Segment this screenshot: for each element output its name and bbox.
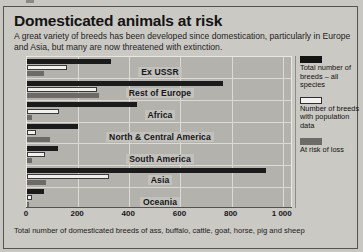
infographic-page: Domesticated animals at risk A great var…	[0, 0, 363, 252]
bar-group	[27, 100, 291, 122]
bar-at-risk	[27, 202, 29, 207]
top-rule	[0, 0, 363, 3]
bar-population-data	[27, 130, 36, 135]
legend-item: At risk of loss	[300, 138, 360, 155]
x-tick-label: 0	[24, 209, 28, 218]
x-tick-label: 800	[224, 209, 237, 218]
bar-at-risk	[27, 71, 44, 76]
bar-population-data	[27, 152, 45, 157]
bar-population-data	[27, 109, 59, 114]
legend-swatch-pop	[300, 97, 322, 104]
x-tick-label: 600	[173, 209, 186, 218]
bar-population-data	[27, 195, 32, 200]
bar-total	[27, 146, 58, 151]
legend-swatch-total	[300, 56, 322, 63]
bar-group	[27, 122, 291, 144]
legend-item: Number of breeds with population data	[300, 97, 360, 131]
plot-area: Ex USSRRest of EuropeAfricaNorth & Centr…	[26, 56, 292, 208]
bar-total	[27, 81, 223, 86]
bar-total	[27, 168, 266, 173]
bar-at-risk	[27, 137, 50, 142]
bar-population-data	[27, 65, 67, 70]
bar-at-risk	[27, 158, 32, 163]
bar-total	[27, 124, 78, 129]
chart-legend: Total number of breeds – all speciesNumb…	[300, 56, 360, 161]
bar-chart: Ex USSRRest of EuropeAfricaNorth & Centr…	[26, 56, 292, 208]
bar-group	[27, 187, 291, 209]
x-axis: 02004006008001 000	[26, 208, 292, 222]
bar-group	[27, 144, 291, 166]
bar-at-risk	[27, 180, 46, 185]
bar-group	[27, 57, 291, 79]
bar-at-risk	[27, 115, 32, 120]
legend-item: Total number of breeds – all species	[300, 56, 360, 90]
page-title: Domesticated animals at risk	[14, 12, 222, 30]
chart-panel: Domesticated animals at risk A great var…	[3, 6, 358, 249]
legend-label: Number of breeds with population data	[300, 105, 360, 131]
bar-total	[27, 59, 111, 64]
x-tick-label: 200	[70, 209, 83, 218]
legend-label: At risk of loss	[300, 146, 360, 155]
bar-group	[27, 166, 291, 188]
bar-group	[27, 79, 291, 101]
legend-label: Total number of breeds – all species	[300, 64, 360, 90]
chart-footnote: Total number of domesticated breeds of a…	[14, 226, 354, 235]
bar-total	[27, 102, 137, 107]
legend-swatch-risk	[300, 138, 322, 145]
x-tick-label: 1 000	[272, 209, 292, 218]
bar-population-data	[27, 174, 109, 179]
bar-total	[27, 189, 44, 194]
x-tick-label: 400	[122, 209, 135, 218]
legend-divider	[295, 56, 296, 208]
bar-at-risk	[27, 93, 99, 98]
bar-population-data	[27, 87, 97, 92]
page-subtitle: A great variety of breeds has been devel…	[14, 31, 352, 52]
